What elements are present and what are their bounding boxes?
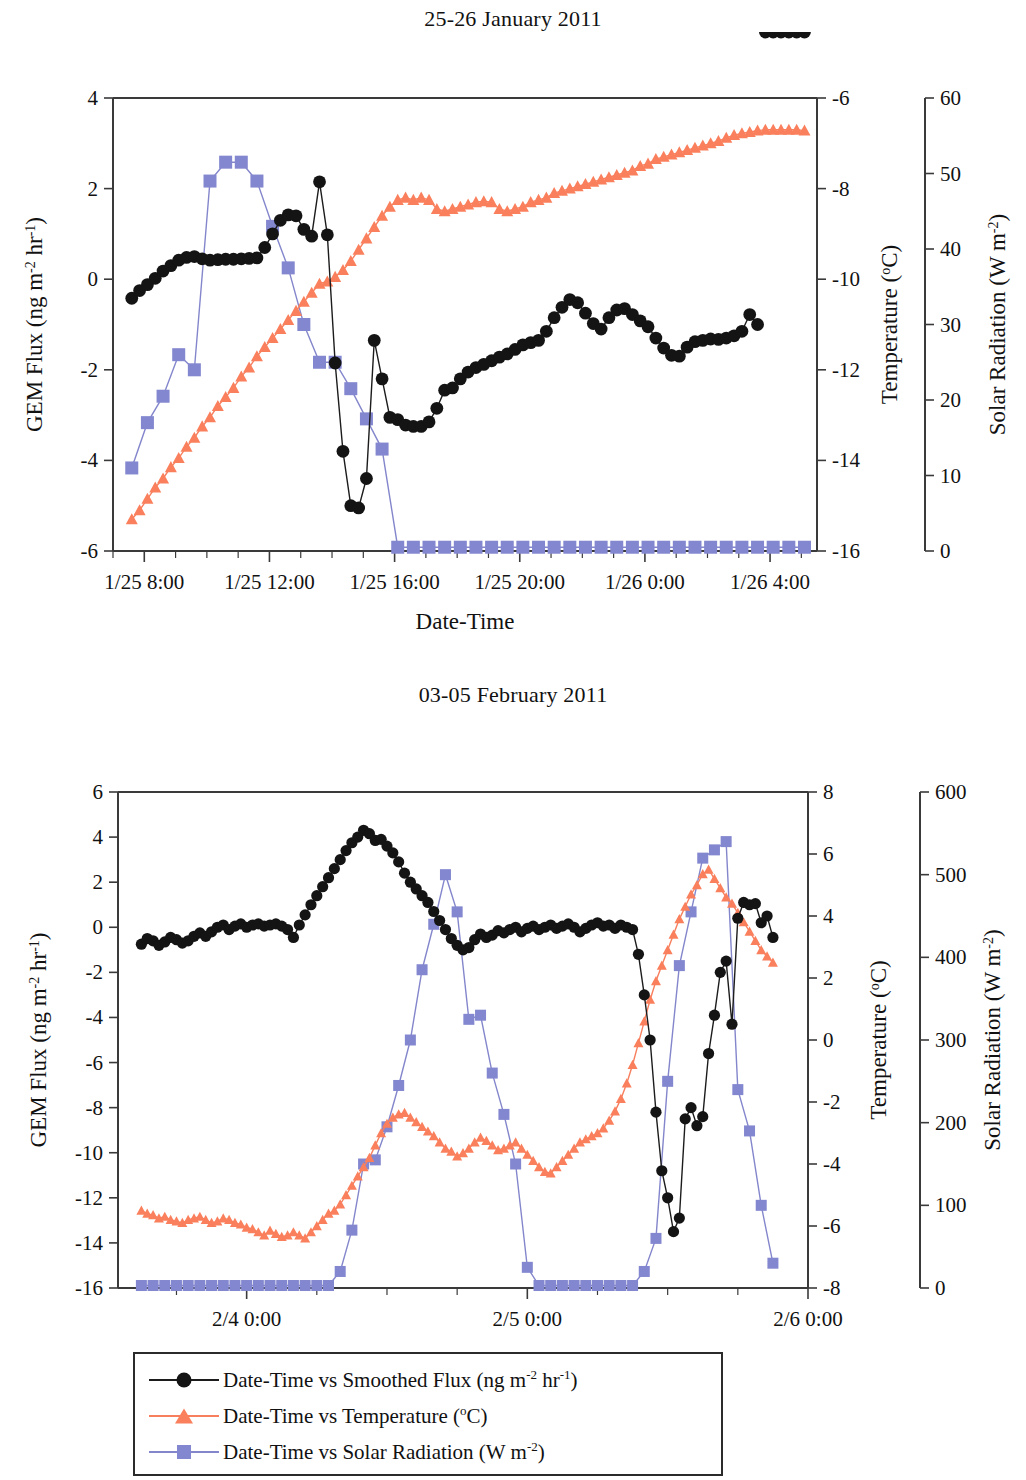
legend-swatch-solar [145,1440,223,1464]
data-point [405,1035,416,1046]
data-point [782,541,795,554]
data-point [767,1258,778,1269]
data-point [393,1080,404,1091]
square-marker-icon [177,1445,191,1459]
data-point [592,1280,603,1291]
data-point [407,541,420,554]
series-line-smoothed-flux [141,830,773,1231]
data-point [697,853,708,864]
y-ticklabel-solar: 400 [935,945,967,969]
legend-item-temperature: Date-Time vs Temperature (oC) [145,1398,721,1434]
data-point [438,541,451,554]
data-point [642,320,655,333]
y-ticklabel-left: 6 [93,780,104,804]
data-point [704,541,717,554]
y-ticklabel-temperature: -10 [832,267,860,291]
data-point [697,1111,708,1122]
y-ticklabel-left: 0 [93,915,104,939]
data-point [360,232,372,243]
y-ticklabel-left: -4 [86,1005,104,1029]
plot-svg-january: 420-2-4-6-6-8-10-12-14-1660504030201001/… [0,32,1026,692]
y-ticklabel-solar: 100 [935,1193,967,1217]
data-point [258,241,271,254]
y-ticklabel-left: -4 [81,448,99,472]
data-point [662,1076,673,1087]
y-ticklabel-temperature: -16 [832,539,860,563]
y-ticklabel-temperature: -4 [823,1152,841,1176]
chart-title-january: 25-26 January 2011 [0,0,1026,32]
x-axis-title: Date-Time [414,1346,513,1348]
data-point [767,932,778,943]
data-point [604,1116,614,1125]
y-ticklabel-solar: 50 [940,162,961,186]
data-point [266,228,279,241]
x-ticklabel: 2/4 0:00 [212,1307,281,1331]
panel-january: 25-26 January 2011 420-2-4-6-6-8-10-12-1… [0,0,1026,700]
data-point [188,363,201,376]
data-point [645,1034,656,1045]
data-point [485,541,498,554]
data-point [430,402,443,415]
data-point [440,869,451,880]
data-point [767,541,780,554]
data-point [674,1213,685,1224]
data-point [663,945,673,954]
y-ticklabel-solar: 0 [940,539,951,563]
data-point [735,541,748,554]
data-point [534,1280,545,1291]
data-point [250,175,263,188]
data-point [721,955,732,966]
data-point [668,1226,679,1237]
data-point [540,325,553,338]
y-ticklabel-temperature: -6 [832,86,850,110]
data-point [360,472,373,485]
data-point [732,913,743,924]
data-point [721,836,732,847]
data-point [709,874,719,883]
data-point [639,989,650,1000]
data-point [290,209,303,222]
data-point [157,472,169,483]
data-point [516,541,529,554]
y-ticklabel-temperature: -2 [823,1090,841,1114]
data-point [633,949,644,960]
data-point [360,412,373,425]
data-point [709,844,720,855]
y-axis-title-temperature: Temperature (oC) [877,245,902,404]
data-point [172,348,185,361]
data-point [571,296,584,309]
data-point [709,1010,720,1021]
data-point [251,252,264,265]
x-axis-title: Date-Time [416,609,515,634]
data-point [204,175,217,188]
data-point [335,1266,346,1277]
data-point [615,1280,626,1291]
data-point [651,976,661,985]
data-point [545,1280,556,1291]
data-point [610,541,623,554]
data-point [370,1140,380,1149]
data-point [557,1280,568,1291]
data-point [337,445,350,458]
data-point [141,493,153,504]
data-point [548,311,561,324]
y-ticklabel-left: -8 [86,1096,104,1120]
data-point [329,357,342,370]
data-point [692,880,702,889]
data-point [532,541,545,554]
data-point [218,1280,229,1291]
data-point [368,334,381,347]
legend-item-flux: Date-Time vs Smoothed Flux (ng m-2 hr-1) [145,1362,721,1398]
x-ticklabel: 1/25 12:00 [224,570,314,594]
data-point [335,1199,345,1208]
data-point [171,1280,182,1291]
data-point [680,1113,691,1124]
data-point [756,1200,767,1211]
y-ticklabel-solar: 10 [940,464,961,488]
data-point [294,919,305,930]
y-ticklabel-left: 2 [93,870,104,894]
data-point [148,1280,159,1291]
data-point [579,541,592,554]
data-point [743,308,756,321]
y-ticklabel-temperature: 6 [823,842,834,866]
